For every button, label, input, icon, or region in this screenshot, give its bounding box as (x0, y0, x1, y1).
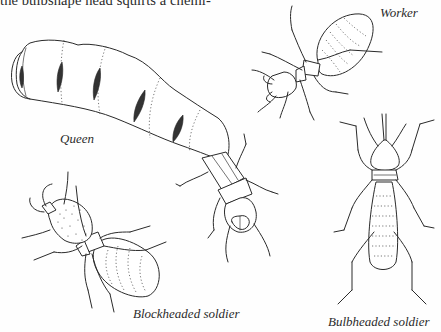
caption-queen: Queen (60, 131, 94, 147)
bulbheaded-soldier-termite (334, 114, 434, 304)
book-page: the bulbshape head squirts a chemi- (0, 0, 441, 332)
caption-worker: Worker (380, 5, 418, 21)
blockheaded-soldier-termite (22, 172, 166, 312)
termite-castes-illustration (0, 0, 441, 332)
worker-termite (252, 6, 382, 120)
caption-blockheaded-soldier: Blockheaded soldier (133, 306, 240, 322)
caption-bulbheaded-soldier: Bulbheaded soldier (328, 314, 429, 330)
queen-termite (11, 40, 278, 262)
